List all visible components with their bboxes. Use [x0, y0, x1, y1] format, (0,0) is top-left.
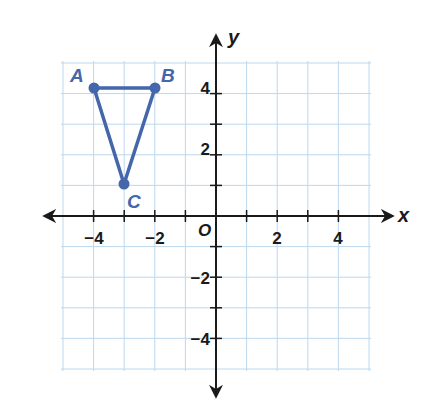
- triangle-abc: A B C: [69, 65, 175, 212]
- vertex-a-point: [89, 83, 100, 94]
- x-tick-label: 4: [333, 229, 343, 248]
- y-axis-label: y: [227, 26, 240, 48]
- x-tick-label: −2: [145, 229, 164, 248]
- vertex-c-label: C: [127, 191, 141, 212]
- x-tick-label: −4: [84, 229, 104, 248]
- vertex-a-label: A: [69, 65, 84, 86]
- origin-label: O: [198, 221, 211, 240]
- x-tick-label: 2: [272, 229, 281, 248]
- y-tick-label: −4: [191, 330, 211, 349]
- x-axis-label: x: [397, 204, 410, 226]
- coordinate-plane: x y O −4 −2 2 4 4 2 −2 −4 A B C: [0, 0, 422, 418]
- y-tick-label: 4: [201, 79, 211, 98]
- y-tick-label: 2: [201, 140, 210, 159]
- x-tick-labels: −4 −2 2 4: [84, 229, 343, 248]
- vertex-b-point: [150, 83, 161, 94]
- y-tick-label: −2: [191, 269, 210, 288]
- y-tick-labels: 4 2 −2 −4: [191, 79, 211, 349]
- vertex-b-label: B: [161, 65, 175, 86]
- vertex-c-point: [119, 179, 130, 190]
